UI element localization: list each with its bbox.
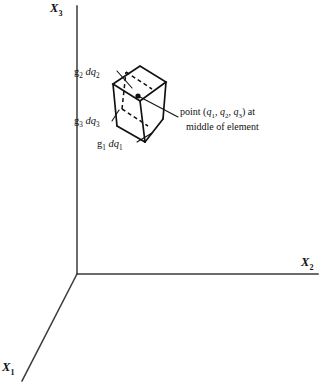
volume-element-group [113,66,166,142]
leader-line-mid-point-note [140,97,178,117]
edge-label-g3-base-sub: 3 [79,121,83,129]
axis-label-x1: X1 [2,360,15,377]
edge-label-g1dq1: g1 dq1 [97,138,123,152]
edge-label-g3dq3: g3 dq3 [74,115,100,129]
figure-vector-layer [0,0,324,386]
edge-label-g2-diff: dq [85,66,96,77]
annotation-prefix: point ( [180,106,206,117]
axis-label-x3-sub: 3 [59,9,63,18]
mid-point-dot [135,93,140,98]
edge-label-g1-diff-sub: 1 [119,144,123,152]
element-edge-left-vertical [113,84,117,126]
axis-x1-line [22,274,77,381]
edge-label-g1-diff: dq [108,138,119,149]
element-hidden-edge-back-bottom-left [122,109,148,126]
axis-label-x2-sub: 2 [310,263,314,272]
edge-label-g2dq2: g2 dq2 [74,66,100,80]
annotation-suffix: ) at [242,106,255,117]
edge-label-g2-base-sub: 2 [79,72,83,80]
axis-label-x1-sub: 1 [11,368,15,377]
figure-canvas: X3 X2 X1 g2 dq2 g3 dq3 g1 dq1 point (q1,… [0,0,324,386]
edge-label-g1-base-sub: 1 [102,144,106,152]
axis-label-x2: X2 [301,255,314,272]
mid-point-annotation-line1: point (q1, q2, q3) at [180,106,255,117]
edge-label-g2-diff-sub: 2 [96,72,100,80]
axis-label-x2-text: X [301,255,310,269]
axis-label-x3-text: X [50,1,59,15]
edge-label-g3-diff-sub: 3 [96,121,100,129]
mid-point-annotation: point (q1, q2, q3) at middle of element [180,106,259,132]
mid-point-annotation-line2: middle of element [180,121,259,132]
element-bottom-edge-right [145,119,163,142]
element-edge-right-vertical [163,82,166,119]
axis-group [22,6,318,381]
axis-label-x3: X3 [50,1,63,18]
edge-label-g3-diff: dq [85,115,96,126]
axis-label-x1-text: X [2,360,11,374]
